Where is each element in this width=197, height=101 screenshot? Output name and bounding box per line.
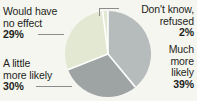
slice-label-percent: 30%	[3, 81, 52, 93]
slice-label-line1: Don't know,	[141, 4, 194, 16]
leader-line-dont-know-horizontal	[99, 8, 119, 9]
slice-label-a-little-more-likely: A little more likely 30%	[3, 58, 52, 93]
pie-chart	[65, 11, 151, 97]
slice-label-percent: 2%	[141, 27, 194, 39]
slice-label-percent: 39%	[169, 79, 194, 91]
slice-label-percent: 29%	[3, 29, 57, 41]
slice-label-would-have-no-effect: Would have no effect 29%	[3, 6, 57, 41]
slice-label-much-more-likely: Much more likely 39%	[169, 44, 194, 90]
slice-label-line1: Would have	[3, 6, 57, 18]
slice-label-dont-know-refused: Don't know, refused 2%	[141, 4, 194, 39]
pie-chart-svg	[65, 11, 151, 97]
slice-label-line3: likely	[169, 67, 194, 79]
leader-line-dont-know-vertical	[99, 8, 100, 16]
slice-label-line1: Much	[169, 44, 194, 56]
slice-label-line1: A little	[3, 58, 52, 70]
pie-chart-figure: Would have no effect 29% A little more l…	[0, 0, 197, 101]
